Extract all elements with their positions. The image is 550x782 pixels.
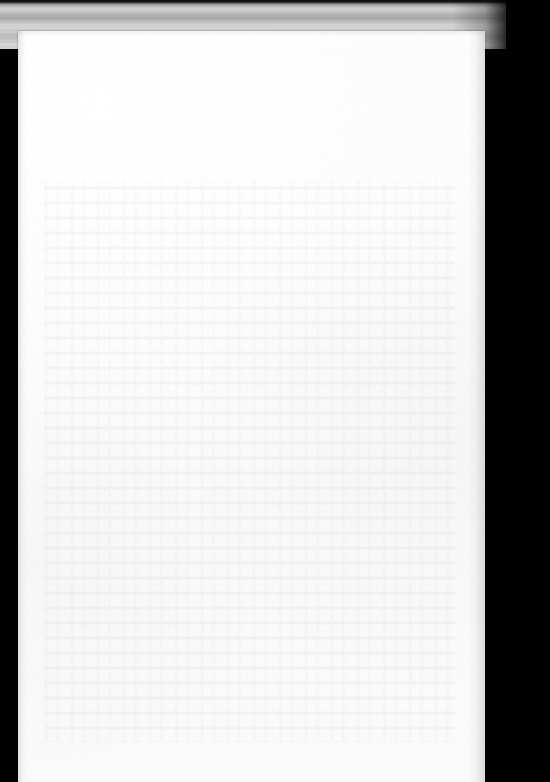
- scanned-page-sheet: [18, 31, 485, 782]
- scanned-document-view: [0, 0, 550, 782]
- paper-sheet-outline: [18, 31, 485, 782]
